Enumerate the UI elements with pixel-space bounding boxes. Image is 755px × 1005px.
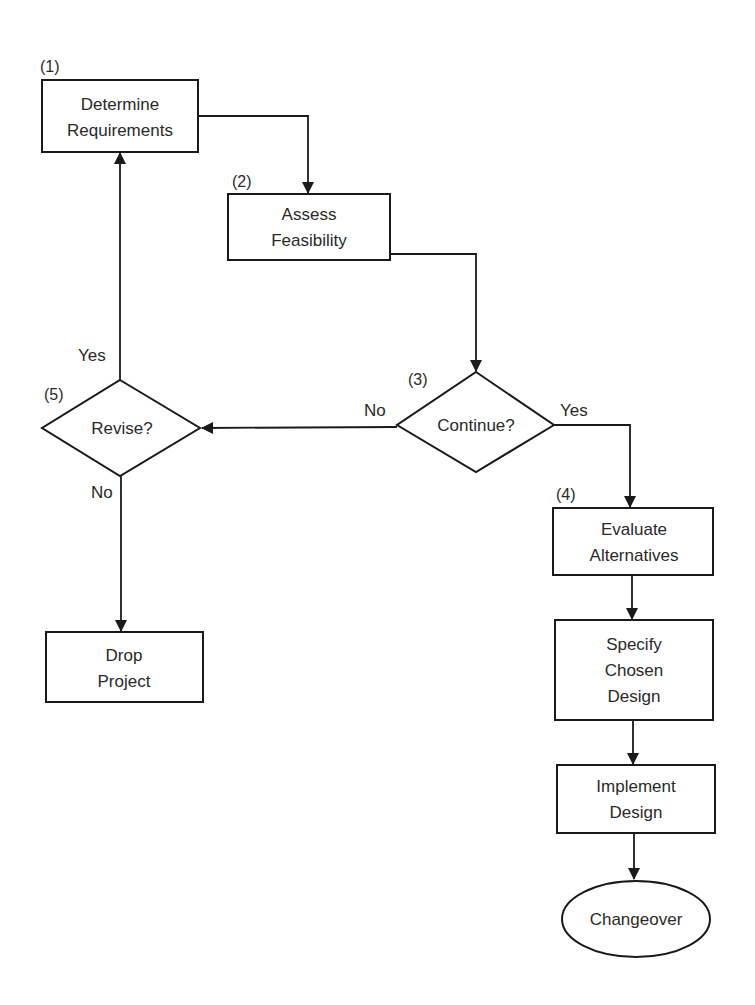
node-label-line: Design xyxy=(608,687,661,706)
edge-continue-no-to-revise xyxy=(202,427,397,428)
step-number-1: (1) xyxy=(40,58,60,75)
flowchart-diagram: Yes No No Yes (1) Determine Requirements… xyxy=(0,0,755,1005)
process-box xyxy=(557,765,715,833)
edge-label-revise-no: No xyxy=(91,483,113,502)
process-box xyxy=(228,194,390,260)
process-box xyxy=(46,632,203,702)
node-label-line: Design xyxy=(610,803,663,822)
node-label-line: Feasibility xyxy=(271,231,347,250)
edge-assess-to-continue xyxy=(390,254,476,371)
edge-label-continue-yes: Yes xyxy=(560,401,588,420)
node-specify-chosen-design: Specify Chosen Design xyxy=(555,620,713,720)
step-number-3: (3) xyxy=(408,371,428,388)
node-label-line: Implement xyxy=(596,777,676,796)
node-label-line: Revise? xyxy=(91,419,152,438)
node-assess-feasibility: (2) Assess Feasibility xyxy=(228,173,390,260)
node-determine-requirements: (1) Determine Requirements xyxy=(40,58,198,152)
step-number-4: (4) xyxy=(556,486,576,503)
node-label-line: Chosen xyxy=(605,661,664,680)
node-changeover: Changeover xyxy=(562,881,710,957)
node-evaluate-alternatives: (4) Evaluate Alternatives xyxy=(553,486,713,575)
node-label-line: Changeover xyxy=(590,910,683,929)
node-label-line: Continue? xyxy=(437,416,515,435)
step-number-5: (5) xyxy=(44,386,64,403)
edge-determine-to-assess xyxy=(198,116,308,193)
step-number-2: (2) xyxy=(232,173,252,190)
node-label-line: Specify xyxy=(606,635,662,654)
node-implement-design: Implement Design xyxy=(557,765,715,833)
node-continue-decision: (3) Continue? xyxy=(397,371,554,472)
node-label-line: Alternatives xyxy=(590,546,679,565)
node-label-line: Assess xyxy=(282,205,337,224)
edge-label-revise-yes: Yes xyxy=(78,346,106,365)
node-label-line: Project xyxy=(98,672,151,691)
node-revise-decision: (5) Revise? xyxy=(42,380,200,476)
node-label-line: Drop xyxy=(106,646,143,665)
node-label-line: Evaluate xyxy=(601,520,667,539)
node-drop-project: Drop Project xyxy=(46,632,203,702)
node-label-line: Requirements xyxy=(67,121,173,140)
edge-label-continue-no: No xyxy=(364,401,386,420)
process-box xyxy=(42,80,198,152)
node-label-line: Determine xyxy=(81,95,159,114)
